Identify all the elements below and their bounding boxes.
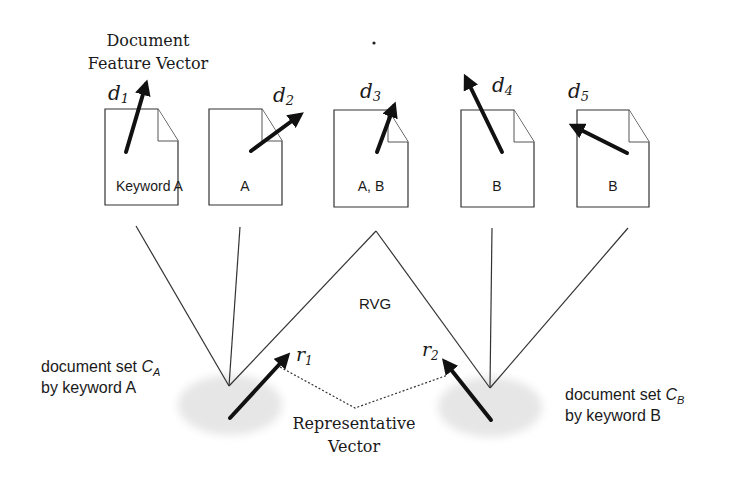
document-2: A d2 — [209, 83, 300, 205]
representative-pointer-lines — [280, 367, 448, 408]
cluster-a-caption: document set CA by keyword A — [41, 358, 160, 396]
document-2-keyword: A — [240, 178, 250, 194]
edge-d4-cb — [490, 228, 492, 388]
title-line2: Feature Vector — [88, 54, 209, 73]
cluster-b-line1: document set CB — [565, 386, 684, 406]
document-3-vector-label: d3 — [360, 79, 381, 104]
document-3: A, B d3 — [334, 79, 408, 207]
document-4-vector-label: d4 — [492, 73, 513, 98]
edge-d2-ca — [229, 227, 240, 386]
r1-label: r1 — [296, 343, 313, 368]
cluster-b-caption: document set CB by keyword B — [565, 386, 684, 424]
representative-label-line1: Representative — [293, 414, 416, 433]
rvg-label: RVG — [359, 295, 391, 312]
cluster-a-blob — [178, 375, 282, 435]
document-3-keyword: A, B — [358, 178, 384, 194]
representative-label-line2: Vector — [327, 437, 381, 456]
document-5-vector-label: d5 — [568, 79, 589, 104]
document-5-keyword: B — [608, 178, 617, 194]
r2-label: r2 — [422, 338, 439, 363]
document-4: B d4 — [461, 73, 534, 207]
cluster-b-line2: by keyword B — [565, 407, 661, 424]
rvg-diagram: Document Feature Vector Keyword A d1 A d… — [0, 0, 750, 483]
edge-d5-cb — [490, 228, 628, 388]
document-4-keyword: B — [492, 178, 501, 194]
document-1-vector-label: d1 — [108, 81, 129, 106]
edge-d3-cb — [376, 231, 490, 388]
title-line1: Document — [106, 31, 190, 50]
stray-dot — [372, 41, 375, 44]
cluster-a-line1: document set CA — [41, 358, 160, 378]
document-2-vector-label: d2 — [273, 83, 294, 108]
cluster-a-line2: by keyword A — [41, 379, 136, 396]
document-1-keyword: Keyword A — [116, 178, 184, 194]
document-1: Keyword A d1 — [105, 81, 184, 205]
document-5: B d5 — [568, 79, 649, 207]
